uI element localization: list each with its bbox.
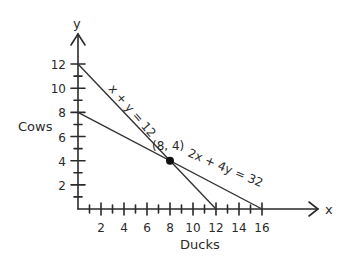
x-tick-label: 10 xyxy=(185,221,200,235)
intersection-point xyxy=(166,157,174,165)
y-axis-letter: y xyxy=(73,16,81,31)
x-tick-label: 2 xyxy=(97,221,105,235)
x-tick-label: 4 xyxy=(120,221,128,235)
x-tick-label: 6 xyxy=(143,221,151,235)
x-axis-letter: x xyxy=(325,202,333,217)
axes xyxy=(71,34,318,216)
y-tick-label: 10 xyxy=(51,82,66,96)
x-tick-label: 14 xyxy=(231,221,246,235)
x-axis-label: Ducks xyxy=(180,237,220,252)
x-tick-label: 16 xyxy=(254,221,269,235)
equation-label-2: 2x + 4y = 32 xyxy=(186,146,265,190)
point-label: (8, 4) xyxy=(152,139,184,153)
y-tick-label: 6 xyxy=(58,131,66,145)
y-axis-label: Cows xyxy=(18,119,53,134)
y-tick-label: 4 xyxy=(58,155,66,169)
y-tick-label: 2 xyxy=(58,179,66,193)
x-tick-label: 12 xyxy=(208,221,223,235)
chart-svg: 24681012141624681012 x y Ducks Cows (8, … xyxy=(0,0,344,264)
series-lines xyxy=(78,64,262,209)
y-tick-label: 12 xyxy=(51,58,66,72)
x-tick-label: 8 xyxy=(166,221,174,235)
chart: 24681012141624681012 x y Ducks Cows (8, … xyxy=(0,0,344,264)
y-tick-label: 8 xyxy=(58,106,66,120)
